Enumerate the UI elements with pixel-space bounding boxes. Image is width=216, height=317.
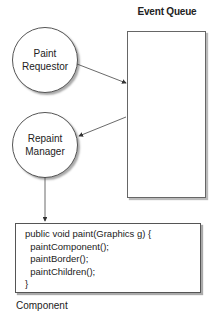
component-code-box: public void paint(Graphics g) { paintCom… bbox=[15, 223, 201, 293]
code-line-4: paintChildren(); bbox=[25, 266, 200, 279]
code-line-2: paintComponent(); bbox=[25, 241, 200, 254]
arrow-queue-to-manager bbox=[79, 117, 126, 136]
code-line-5: } bbox=[25, 278, 200, 291]
code-line-3: paintBorder(); bbox=[25, 253, 200, 266]
code-line-1: public void paint(Graphics g) { bbox=[25, 228, 200, 241]
component-label: Component bbox=[16, 300, 68, 311]
arrow-requestor-to-queue bbox=[77, 64, 126, 83]
